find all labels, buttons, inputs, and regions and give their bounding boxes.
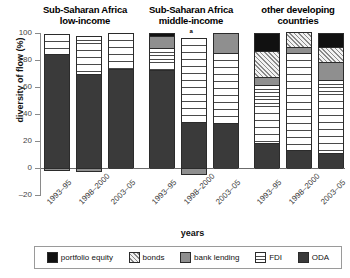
y-tick-label-0: 0	[28, 163, 32, 172]
y-tick-label-20: 20	[23, 136, 32, 145]
y-tick-label-80: 80	[23, 55, 32, 64]
legend-label-portfolio-equity: portfolio equity	[61, 253, 113, 262]
segment-oda	[287, 150, 311, 169]
y-tick-mark-80	[35, 60, 41, 61]
segment-bonds	[287, 33, 311, 48]
segment-oda	[255, 143, 279, 169]
x-tick-label-group0-1: 1998–2000	[77, 172, 112, 207]
legend-label-bonds: bonds	[143, 253, 165, 262]
group-title-line-1: Sub-Saharan Africa	[33, 4, 137, 15]
x-tick-label-group2-2: 2003–05	[319, 178, 347, 206]
legend-item-oda[interactable]: ODA	[298, 252, 329, 263]
segment-bank-lending-negative-group0-1998-2000	[76, 168, 102, 172]
segment-fdi	[45, 35, 69, 54]
segment-fdi	[255, 85, 279, 143]
legend-swatch-bank-lending-icon	[180, 252, 191, 263]
legend-label-fdi: FDI	[269, 253, 282, 262]
y-tick-mark-60	[35, 87, 41, 88]
legend-item-bonds[interactable]: bonds	[129, 252, 165, 263]
legend-swatch-bonds-icon	[129, 252, 140, 263]
y-tick-label-40: 40	[23, 109, 32, 118]
y-tick-label-60: 60	[23, 82, 32, 91]
segment-fdi	[287, 53, 311, 150]
x-tick-label-group1-2: 2003–05	[214, 178, 242, 206]
segment-bank-lending	[319, 62, 343, 80]
segment-bonds	[319, 47, 343, 62]
segment-bank-lending	[255, 77, 279, 85]
x-tick-label-group2-0: 1993–95	[255, 178, 283, 206]
y-tick-mark-40	[35, 114, 41, 115]
segment-oda	[214, 123, 238, 169]
group-title-line-2: low-income	[33, 15, 137, 26]
group-title-line-2: countries	[249, 15, 347, 26]
segment-fdi	[214, 53, 238, 123]
group-title-other-developing: other developing countries	[249, 4, 347, 26]
group-title-line-1: other developing	[249, 4, 347, 15]
legend-label-bank-lending: bank lending	[194, 253, 239, 262]
segment-fdi	[109, 34, 133, 69]
bar-group2-1993-95	[254, 33, 280, 168]
bar-group1-1998-2000	[181, 38, 207, 168]
segment-oda	[182, 122, 206, 169]
x-tick-label-group1-1: 1998–2000	[182, 172, 217, 207]
segment-oda	[150, 70, 174, 169]
segment-oda	[77, 74, 101, 169]
legend-item-bank-lending[interactable]: bank lending	[180, 252, 239, 263]
segment-fdi	[182, 39, 206, 121]
bar-group1-2003-05	[213, 33, 239, 168]
x-tick-label-group2-1: 1998–2000	[287, 172, 322, 207]
group-title-line-1: Sub-Saharan Africa	[138, 4, 244, 15]
segment-bank-lending	[150, 36, 174, 48]
legend: portfolio equity bonds bank lending FDI …	[34, 246, 342, 269]
segment-bank-lending-negative-group0-1993-95	[44, 168, 70, 171]
chart-figure: Sub-Saharan Africa low-income Sub-Sahara…	[0, 0, 350, 278]
segment-oda	[109, 69, 133, 169]
legend-label-oda: ODA	[312, 253, 329, 262]
legend-swatch-portfolio-equity-icon	[47, 252, 58, 263]
segment-oda	[45, 54, 69, 169]
y-tick-label-100: 100	[19, 28, 32, 37]
bar-group2-1998-2000	[286, 32, 312, 168]
x-tick-label-group0-0: 1993–95	[45, 178, 73, 206]
segment-bank-lending-negative-group1-1998-2000	[181, 168, 207, 175]
group-title-line-2-text: middle-income	[138, 15, 244, 26]
legend-item-fdi[interactable]: FDI	[255, 252, 282, 263]
segment-oda	[319, 153, 343, 169]
segment-fdi	[77, 37, 101, 75]
x-tick-label-group1-0: 1993–95	[150, 178, 178, 206]
x-tick-label-group0-2: 2003–05	[109, 178, 137, 206]
legend-swatch-oda-icon	[298, 252, 309, 263]
y-tick-mark-neg20	[35, 195, 41, 196]
legend-item-portfolio-equity[interactable]: portfolio equity	[47, 252, 113, 263]
segment-fdi	[150, 48, 174, 70]
bar-group1-1993-95	[149, 33, 175, 168]
x-axis-title: years	[40, 228, 345, 238]
bar-group2-2003-05	[318, 33, 344, 168]
segment-fdi	[319, 80, 343, 153]
segment-bonds	[255, 51, 279, 77]
group-title-ssa-low-income: Sub-Saharan Africa low-income	[33, 4, 137, 26]
y-tick-mark-0	[35, 168, 41, 169]
bar-group0-1998-2000	[76, 36, 102, 168]
bar-group0-2003-05	[108, 33, 134, 168]
bar-group0-1993-95	[44, 34, 70, 168]
legend-swatch-fdi-icon	[255, 252, 266, 263]
y-tick-mark-100	[35, 33, 41, 34]
segment-portfolio-equity	[319, 34, 343, 48]
segment-portfolio-equity	[255, 34, 279, 52]
segment-bank-lending	[214, 34, 238, 53]
y-tick-label-neg20: –20	[19, 190, 32, 199]
y-tick-mark-20	[35, 141, 41, 142]
